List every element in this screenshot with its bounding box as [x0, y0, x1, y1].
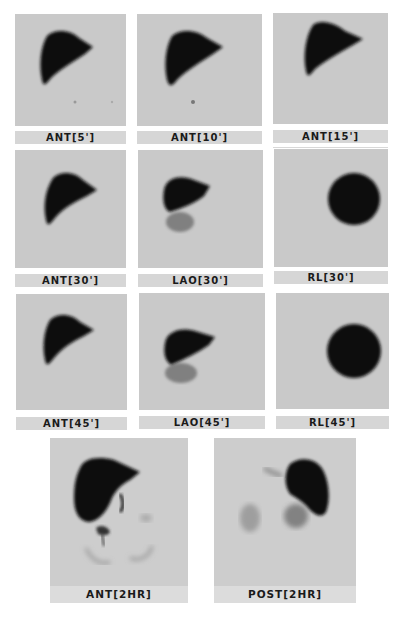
scan-panel-ant-15: ANT[15'] [273, 13, 388, 144]
liver-uptake-icon [16, 294, 127, 410]
scan-label: ANT[15'] [273, 130, 388, 143]
liver-uptake-icon [214, 438, 356, 586]
scan-label: ANT[30'] [15, 274, 126, 287]
scan-label: ANT[5'] [15, 131, 126, 144]
scan-panel-ant-10: ANT[10'] [137, 14, 262, 145]
scan-image [276, 293, 389, 409]
scan-image [137, 14, 262, 126]
scan-label: LAO[30'] [138, 274, 263, 287]
scan-image [273, 13, 388, 124]
liver-uptake-icon [274, 149, 388, 267]
scan-image [15, 14, 126, 126]
scan-panel-lao-30: LAO[30'] [138, 150, 263, 288]
liver-uptake-icon [15, 14, 126, 126]
scan-label: LAO[45'] [139, 416, 265, 429]
scan-image [15, 150, 126, 268]
scan-label: RL[30'] [274, 271, 388, 284]
liver-uptake-icon [273, 13, 388, 124]
scan-label: ANT[10'] [137, 131, 262, 144]
divider [273, 147, 388, 148]
liver-uptake-icon [15, 150, 126, 268]
scan-panel-post-2hr: POST[2HR] [214, 438, 356, 604]
scan-panel-ant-30: ANT[30'] [15, 150, 126, 288]
scan-image [274, 149, 388, 267]
scan-image [138, 150, 263, 268]
liver-uptake-icon [50, 438, 188, 586]
scan-label: RL[45'] [276, 416, 389, 429]
liver-uptake-icon [138, 150, 263, 268]
scan-image [139, 293, 265, 410]
scan-image [16, 294, 127, 410]
scan-image [50, 438, 188, 586]
scan-image [214, 438, 356, 586]
scan-label: ANT[45'] [16, 417, 127, 430]
scan-panel-ant-45: ANT[45'] [16, 294, 127, 431]
liver-uptake-icon [137, 14, 262, 126]
scan-panel-ant-5: ANT[5'] [15, 14, 126, 145]
scan-panel-rl-45: RL[45'] [276, 293, 389, 430]
scan-label: ANT[2HR] [50, 586, 188, 603]
liver-uptake-icon [276, 293, 389, 409]
scan-panel-lao-45: LAO[45'] [139, 293, 265, 430]
liver-uptake-icon [139, 293, 265, 410]
scan-label: POST[2HR] [214, 586, 356, 603]
scan-panel-ant-2hr: ANT[2HR] [50, 438, 188, 604]
scan-panel-rl-30: RL[30'] [274, 149, 388, 287]
